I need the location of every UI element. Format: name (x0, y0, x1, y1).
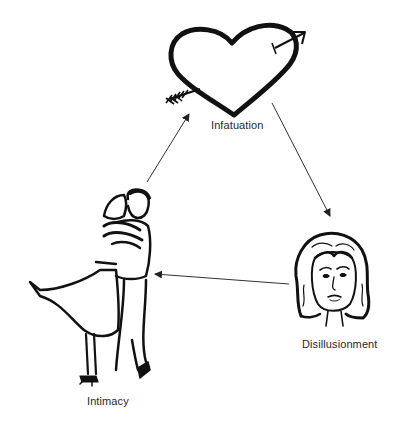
edge-disillusionment-to-intimacy (155, 274, 289, 284)
node-label-disillusionment: Disillusionment (302, 338, 377, 350)
heart-with-arrow-icon (166, 25, 305, 115)
edge-intimacy-to-infatuation (147, 114, 189, 182)
embracing-couple-icon (30, 189, 150, 386)
diagram-canvas (0, 0, 406, 430)
woman-face-icon (296, 233, 369, 326)
node-label-intimacy: Intimacy (87, 395, 129, 407)
edge-infatuation-to-disillusionment (272, 103, 330, 216)
cycle-diagram: Infatuation Disillusionment Intimacy (0, 0, 406, 430)
node-label-infatuation: Infatuation (211, 119, 263, 131)
